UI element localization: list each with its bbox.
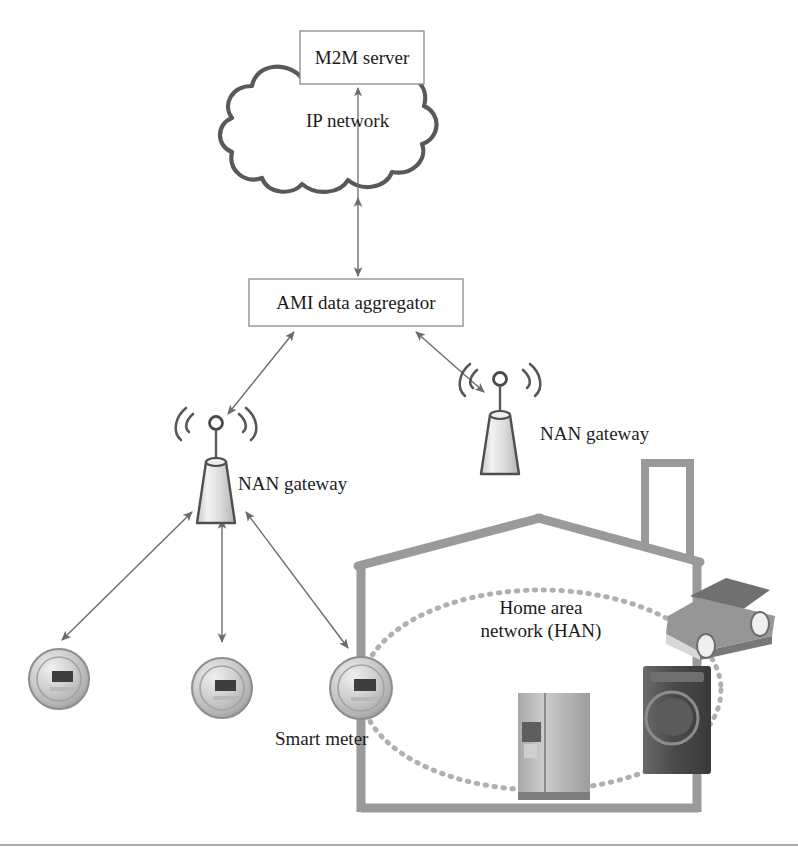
- figure-canvas: M2M server IP network AMI data aggregato…: [0, 0, 798, 857]
- smart-meter-label: Smart meter: [275, 728, 368, 750]
- refrigerator-icon: [518, 693, 590, 800]
- home-area-network-label: Home area network (HAN): [436, 597, 646, 643]
- connector-aggregator-to-nan-gateway-right: [416, 332, 484, 392]
- diagram-vector-layer: [0, 0, 798, 857]
- smart-meter-icon: [29, 649, 89, 709]
- washing-machine-icon: [643, 666, 711, 774]
- han-label-line-2: network (HAN): [436, 620, 646, 643]
- ami-aggregator-label: AMI data aggregator: [249, 279, 463, 326]
- connector-nan-gateway-left-to-meter-1: [62, 512, 192, 640]
- m2m-server-label: M2M server: [300, 31, 424, 84]
- han-label-line-1: Home area: [436, 597, 646, 620]
- connector-aggregator-to-nan-gateway-left: [228, 332, 294, 414]
- smart-meter-icon: [330, 657, 392, 719]
- electric-car-icon: [666, 578, 775, 660]
- smart-meter-icon: [192, 658, 252, 718]
- ip-network-label: IP network: [306, 110, 389, 132]
- connector-nan-gateway-left-to-meter-3: [246, 512, 348, 648]
- antenna-tower-icon: [176, 408, 257, 523]
- nan-gateway-right-label: NAN gateway: [540, 423, 649, 445]
- nan-gateway-left-label: NAN gateway: [238, 473, 347, 495]
